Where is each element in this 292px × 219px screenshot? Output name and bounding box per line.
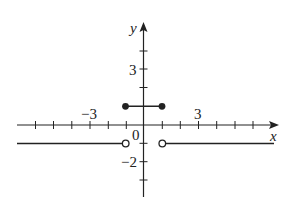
open-endpoint-left-icon (122, 140, 129, 147)
x-axis-label: x (269, 128, 277, 144)
x-tick-label-neg3: −3 (81, 106, 97, 122)
open-endpoint-right-icon (159, 140, 166, 147)
closed-endpoint-left-icon (122, 103, 129, 110)
y-tick-label-neg2: −2 (121, 154, 137, 170)
closed-endpoint-right-icon (159, 103, 166, 110)
origin-label: 0 (132, 127, 140, 143)
x-tick-label-3: 3 (194, 106, 202, 122)
y-axis-label: y (128, 20, 137, 36)
x-axis: x −3 3 (17, 106, 279, 144)
step-function-graph: x −3 3 y 3 −2 0 (0, 0, 292, 219)
y-tick-label-3: 3 (129, 62, 137, 78)
